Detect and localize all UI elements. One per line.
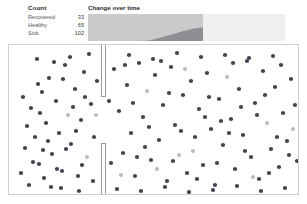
particle-dot xyxy=(199,55,203,59)
particle-dot xyxy=(42,176,46,180)
particle-dot xyxy=(47,76,51,80)
simulation-panel[interactable] xyxy=(8,44,299,195)
particle-dot xyxy=(123,63,127,67)
header-area: Count Recovered 33 Healthy 65 Sick 102 C… xyxy=(0,0,307,44)
particle-dot xyxy=(135,155,139,159)
upper-wall[interactable] xyxy=(102,45,106,97)
particle-dot xyxy=(31,160,35,164)
particle-dot xyxy=(185,171,189,175)
simulation-svg xyxy=(9,45,298,194)
particle-dot xyxy=(257,177,261,181)
particle-dot xyxy=(63,63,67,67)
particle-dot xyxy=(203,115,207,119)
particle-dot xyxy=(273,85,277,89)
particle-dot xyxy=(183,67,187,71)
particle-dot xyxy=(193,135,197,139)
particle-dot xyxy=(271,54,275,58)
particle-dot xyxy=(275,135,279,139)
particle-dot xyxy=(237,87,241,91)
particle-dot xyxy=(89,102,93,106)
particle-dot xyxy=(36,82,40,86)
particle-dot xyxy=(46,139,50,143)
particle-dot xyxy=(133,174,137,178)
particle-dot xyxy=(259,189,263,193)
legend-row-recovered: Recovered 33 xyxy=(28,13,84,21)
count-legend-title: Count xyxy=(28,3,84,12)
particle-dot xyxy=(265,121,269,125)
particle-dot xyxy=(60,169,64,173)
particle-dot xyxy=(94,113,98,117)
particle-dot xyxy=(215,161,219,165)
particle-dot xyxy=(71,105,75,109)
particle-dot xyxy=(38,111,42,115)
legend-label-sick: Sick xyxy=(28,29,39,37)
legend-label-healthy: Healthy xyxy=(28,21,47,29)
particle-dot xyxy=(229,117,233,121)
particle-dot xyxy=(283,186,287,190)
particle-dot xyxy=(25,124,29,128)
particle-dot xyxy=(231,61,235,65)
particle-dot xyxy=(247,56,251,60)
particle-dot xyxy=(269,147,273,151)
particle-dot xyxy=(163,185,167,189)
particle-dot xyxy=(155,167,159,171)
particle-dot xyxy=(66,113,70,117)
particle-dot xyxy=(217,97,221,101)
particle-dot xyxy=(95,79,99,83)
particle-dot xyxy=(291,127,295,131)
particle-dot xyxy=(205,71,209,75)
particle-dot xyxy=(54,99,58,103)
particle-dot xyxy=(23,146,27,150)
particle-dot xyxy=(141,115,145,119)
particle-dot xyxy=(161,103,165,107)
legend-row-sick: Sick 102 xyxy=(28,29,84,37)
particle-dot xyxy=(117,109,121,113)
particle-dot xyxy=(35,57,39,61)
particle-dot xyxy=(207,95,211,99)
particle-dot xyxy=(177,153,181,157)
particle-dot xyxy=(139,189,143,193)
particle-dot xyxy=(33,135,37,139)
particle-dot xyxy=(82,70,86,74)
particle-dot xyxy=(179,129,183,133)
particle-dot xyxy=(64,147,68,151)
particle-dot xyxy=(83,95,87,99)
particle-dot xyxy=(293,103,297,107)
particle-dot xyxy=(74,129,78,133)
particle-dot xyxy=(61,77,65,81)
particle-dot xyxy=(57,131,61,135)
particle-dot xyxy=(209,127,213,131)
particle-dot xyxy=(131,101,135,105)
particle-dot xyxy=(267,171,271,175)
particle-dot xyxy=(289,77,293,81)
particle-dot xyxy=(127,53,131,57)
legend-value-recovered: 33 xyxy=(72,13,84,21)
particle-dot xyxy=(153,73,157,77)
particle-dot xyxy=(145,89,149,93)
particle-dot xyxy=(109,161,113,165)
particle-dot xyxy=(261,69,265,73)
particle-dot xyxy=(277,165,281,169)
particle-dot xyxy=(59,186,63,190)
timeline-area-chart xyxy=(88,14,285,41)
lower-wall[interactable] xyxy=(102,144,106,195)
particle-dot xyxy=(92,135,96,139)
particle-dot xyxy=(181,93,185,97)
particle-dot xyxy=(171,159,175,163)
change-over-time-section: Change over time xyxy=(88,3,288,41)
count-legend: Count Recovered 33 Healthy 65 Sick 102 xyxy=(28,3,84,37)
particle-dot xyxy=(175,51,179,55)
particle-dot xyxy=(129,131,133,135)
particle-dot xyxy=(55,167,59,171)
legend-value-sick: 102 xyxy=(69,29,84,37)
particle-dot xyxy=(227,131,231,135)
particle-dot xyxy=(189,79,193,83)
particle-dot xyxy=(249,155,253,159)
particle-dot xyxy=(76,174,80,178)
particle-dot xyxy=(80,163,84,167)
timeline-chart-svg xyxy=(88,14,285,41)
particle-dot xyxy=(251,175,255,179)
particle-dot xyxy=(169,65,173,69)
particle-dot xyxy=(167,91,171,95)
particle-dot xyxy=(69,142,73,146)
